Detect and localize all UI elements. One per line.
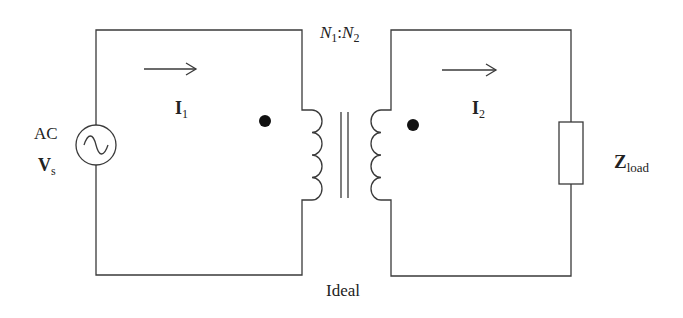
ac-source-icon bbox=[76, 125, 116, 165]
secondary-dot-icon bbox=[407, 119, 419, 131]
secondary-circuit bbox=[371, 30, 583, 276]
primary-dot-icon bbox=[259, 115, 271, 127]
circuit-diagram: AC Vs I1 I2 N1:N2 Zload Ideal bbox=[0, 0, 683, 318]
current-arrow-i2-icon bbox=[442, 64, 496, 76]
turns-ratio-label: N1:N2 bbox=[319, 23, 359, 45]
primary-coil-icon bbox=[312, 110, 322, 200]
secondary-wire-bottom bbox=[381, 184, 571, 276]
current-arrow-i1-icon bbox=[144, 63, 196, 75]
primary-circuit bbox=[76, 30, 322, 275]
source-voltage-label: Vs bbox=[38, 155, 56, 178]
load-label: Zload bbox=[614, 151, 650, 175]
primary-wire-bottom bbox=[96, 165, 312, 275]
source-type-label: AC bbox=[34, 124, 58, 143]
secondary-coil-icon bbox=[371, 110, 381, 200]
secondary-current-label: I2 bbox=[472, 98, 485, 121]
primary-current-label: I1 bbox=[175, 98, 188, 121]
transformer-core-icon bbox=[341, 112, 348, 198]
ideal-label: Ideal bbox=[326, 281, 360, 300]
primary-wire-top bbox=[96, 30, 312, 125]
load-impedance-icon bbox=[559, 122, 583, 184]
